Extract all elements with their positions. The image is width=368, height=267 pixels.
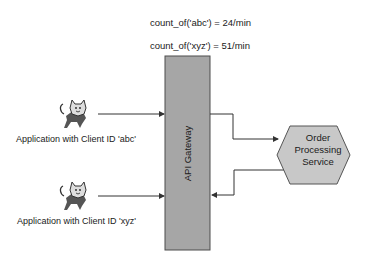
service-label-line: Order — [283, 132, 353, 144]
api-gateway-label: API Gateway — [182, 125, 193, 180]
arrow-service-to-gateway — [212, 170, 284, 195]
api-gateway-label-box: API Gateway — [165, 56, 210, 250]
service-label-line: Processing — [283, 144, 353, 156]
client-abc-label: Application with Client ID 'abc' — [16, 134, 136, 144]
client-xyz-label: Application with Client ID 'xyz' — [17, 216, 136, 226]
arrow-gateway-to-service — [210, 114, 278, 139]
tomcat-cat-icon — [60, 182, 86, 210]
order-service-label: Order Processing Service — [283, 132, 353, 168]
tomcat-cat-icon — [60, 100, 86, 128]
service-label-line: Service — [283, 156, 353, 168]
